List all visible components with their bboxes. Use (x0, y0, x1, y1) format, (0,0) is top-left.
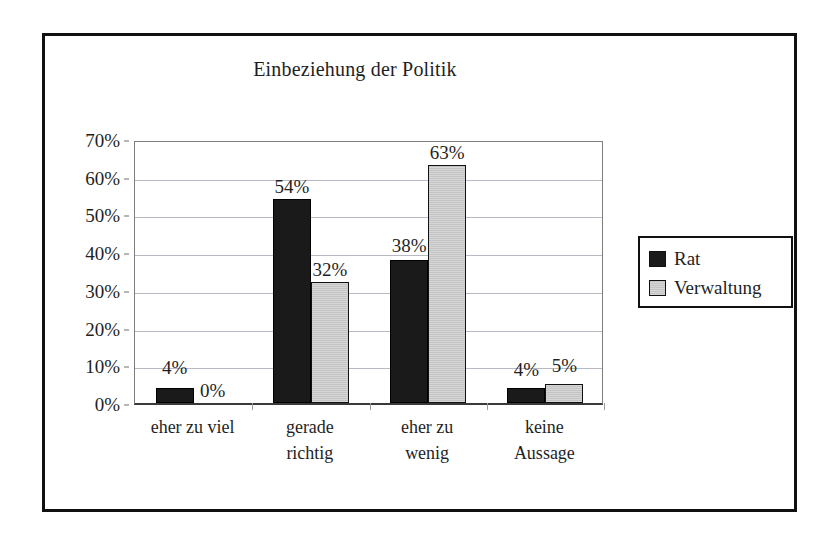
legend-swatch-icon (649, 251, 666, 267)
x-axis: eher zu vielgeraderichtigeher zuwenigkei… (134, 414, 603, 484)
bar-value-label: 5% (552, 355, 577, 377)
y-axis-tick-label: 20% (85, 319, 120, 341)
y-axis-tick-mark (124, 254, 129, 255)
gridline (135, 180, 602, 181)
x-axis-category-line: wenig (369, 440, 486, 466)
bar-value-label: 63% (430, 142, 465, 164)
gridline (135, 255, 602, 256)
x-axis-category-label: keineAussage (486, 414, 603, 466)
legend-label: Rat (674, 248, 700, 270)
bar-value-label: 32% (312, 259, 347, 281)
bar-rat-3 (507, 388, 545, 403)
x-axis-category-line: eher zu (369, 414, 486, 440)
x-axis-tick-mark (487, 403, 488, 410)
y-axis-tick-mark (124, 216, 129, 217)
x-axis-category-line: gerade (251, 414, 368, 440)
x-axis-tick-mark (604, 403, 605, 410)
y-axis-tick-mark (124, 367, 129, 368)
y-axis: 70%60%50%40%30%20%10%0% (45, 141, 128, 405)
x-axis-category-line: eher zu viel (134, 414, 251, 440)
x-axis-category-line: richtig (251, 440, 368, 466)
bar-value-label: 54% (274, 176, 309, 198)
y-axis-tick-mark (124, 141, 129, 142)
x-axis-category-line: Aussage (486, 440, 603, 466)
x-axis-tick-mark (252, 403, 253, 410)
bar-value-label: 0% (200, 380, 225, 402)
x-axis-category-line: keine (486, 414, 603, 440)
x-axis-tick-mark (370, 403, 371, 410)
x-axis-category-label: eher zu viel (134, 414, 251, 440)
bar-verwaltung-3 (545, 384, 583, 403)
x-axis-category-label: geraderichtig (251, 414, 368, 466)
legend-label: Verwaltung (674, 277, 762, 299)
gridline (135, 331, 602, 332)
y-axis-tick-label: 50% (85, 205, 120, 227)
legend-item-rat[interactable]: Rat (649, 244, 782, 273)
plot-area: 4%0%54%32%38%63%4%5% (134, 141, 603, 405)
legend-item-verwaltung[interactable]: Verwaltung (649, 273, 782, 302)
chart-title: Einbeziehung der Politik (45, 58, 665, 81)
bar-value-label: 4% (514, 359, 539, 381)
y-axis-tick-label: 30% (85, 281, 120, 303)
bar-verwaltung-2 (428, 165, 466, 403)
bar-value-label: 4% (162, 357, 187, 379)
chart-legend: RatVerwaltung (638, 236, 793, 308)
y-axis-tick-mark (124, 291, 129, 292)
y-axis-tick-mark (124, 329, 129, 330)
y-axis-tick-mark (124, 178, 129, 179)
bar-rat-2 (390, 260, 428, 403)
y-axis-tick-label: 70% (85, 130, 120, 152)
chart-figure-frame: Einbeziehung der Politik 70%60%50%40%30%… (42, 33, 797, 512)
gridline (135, 293, 602, 294)
bar-rat-1 (273, 199, 311, 403)
y-axis-tick-label: 40% (85, 243, 120, 265)
bar-rat-0 (156, 388, 194, 403)
y-axis-tick-label: 10% (85, 356, 120, 378)
y-axis-tick-label: 0% (95, 394, 120, 416)
x-axis-category-label: eher zuwenig (369, 414, 486, 466)
bar-verwaltung-1 (311, 282, 349, 403)
y-axis-tick-label: 60% (85, 168, 120, 190)
legend-swatch-icon (649, 280, 666, 296)
gridline (135, 217, 602, 218)
bar-value-label: 38% (392, 235, 427, 257)
y-axis-tick-mark (124, 405, 129, 406)
